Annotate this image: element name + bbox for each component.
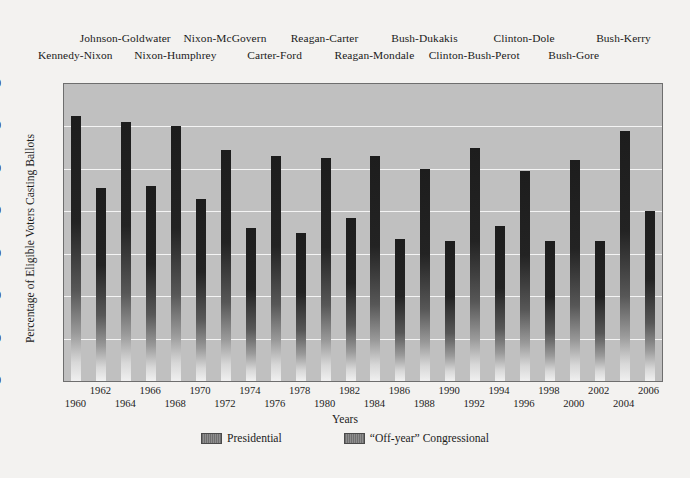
election-label-1976: Carter-Ford [247, 49, 302, 62]
x-tick-1974: 1974 [239, 385, 260, 396]
x-tick-1994: 1994 [488, 385, 509, 396]
legend-item-presidential: Presidential [201, 432, 282, 445]
bar-1990 [445, 241, 455, 381]
bar-1966 [146, 186, 156, 381]
x-tick-1984: 1984 [364, 398, 385, 409]
x-tick-1980: 1980 [314, 398, 335, 409]
legend-swatch-icon [344, 433, 365, 444]
y-tick-20: 20 [0, 289, 1, 302]
x-tick-2002: 2002 [588, 385, 609, 396]
election-label-1972: Nixon-McGovern [183, 32, 266, 45]
x-tick-1982: 1982 [339, 385, 360, 396]
legend-item-offyear: “Off-year” Congressional [344, 432, 489, 445]
legend-swatch-icon [201, 433, 222, 444]
x-tick-1972: 1972 [214, 398, 235, 409]
plot-area [63, 83, 663, 382]
y-tick-10: 10 [0, 331, 1, 344]
bar-1976 [271, 156, 281, 381]
y-tick-70: 70 [0, 77, 1, 90]
y-tick-50: 50 [0, 161, 1, 174]
bar-1982 [346, 218, 356, 381]
x-tick-1990: 1990 [439, 385, 460, 396]
x-tick-2006: 2006 [638, 385, 659, 396]
election-label-1980: Reagan-Carter [291, 32, 359, 45]
y-tick-60: 60 [0, 119, 1, 132]
x-tick-1976: 1976 [264, 398, 285, 409]
election-turnout-chart: Kennedy-NixonJohnson-GoldwaterNixon-Hump… [0, 0, 690, 478]
legend-label-offyear: “Off-year” Congressional [370, 432, 489, 445]
bar-1960 [71, 116, 81, 381]
x-tick-1988: 1988 [414, 398, 435, 409]
x-tick-1962: 1962 [90, 385, 111, 396]
x-tick-2000: 2000 [563, 398, 584, 409]
x-tick-1978: 1978 [289, 385, 310, 396]
bar-series [64, 84, 662, 381]
x-tick-1986: 1986 [389, 385, 410, 396]
y-tick-40: 40 [0, 204, 1, 217]
election-annotations: Kennedy-NixonJohnson-GoldwaterNixon-Hump… [0, 32, 690, 80]
bar-1994 [495, 226, 505, 381]
y-axis-label: Percentage of Eligible Voters Casting Ba… [24, 109, 37, 369]
bar-2000 [570, 160, 580, 381]
legend: Presidential “Off-year” Congressional [0, 432, 690, 445]
x-tick-1998: 1998 [538, 385, 559, 396]
bar-2006 [645, 211, 655, 381]
bar-1972 [221, 150, 231, 381]
election-label-1992: Clinton-Bush-Perot [429, 49, 520, 62]
bar-1968 [171, 126, 181, 381]
bar-1980 [321, 158, 331, 381]
x-axis-label: Years [0, 413, 690, 426]
bar-1988 [420, 169, 430, 381]
bar-1970 [196, 199, 206, 381]
election-label-1968: Nixon-Humphrey [134, 49, 216, 62]
x-tick-1992: 1992 [464, 398, 485, 409]
election-label-1996: Clinton-Dole [493, 32, 554, 45]
bar-1986 [395, 239, 405, 381]
election-label-1964: Johnson-Goldwater [80, 32, 171, 45]
election-label-2004: Bush-Kerry [596, 32, 651, 45]
bar-2002 [595, 241, 605, 381]
election-label-2000: Bush-Gore [548, 49, 599, 62]
y-tick-30: 30 [0, 246, 1, 259]
bar-1974 [246, 228, 256, 381]
election-label-1988: Bush-Dukakis [391, 32, 457, 45]
x-tick-1966: 1966 [140, 385, 161, 396]
bar-1996 [520, 171, 530, 381]
bar-1984 [370, 156, 380, 381]
bar-1992 [470, 148, 480, 381]
bar-1998 [545, 241, 555, 381]
legend-label-presidential: Presidential [227, 432, 282, 445]
x-tick-1970: 1970 [189, 385, 210, 396]
x-tick-1996: 1996 [513, 398, 534, 409]
bar-1978 [296, 233, 306, 382]
bar-1962 [96, 188, 106, 381]
election-label-1984: Reagan-Mondale [334, 49, 414, 62]
bar-1964 [121, 122, 131, 381]
bar-2004 [620, 131, 630, 381]
x-axis-ticks: 1960196219641966196819701972197419761978… [0, 383, 690, 417]
x-tick-1964: 1964 [115, 398, 136, 409]
x-tick-2004: 2004 [613, 398, 634, 409]
x-tick-1960: 1960 [65, 398, 86, 409]
x-tick-1968: 1968 [165, 398, 186, 409]
